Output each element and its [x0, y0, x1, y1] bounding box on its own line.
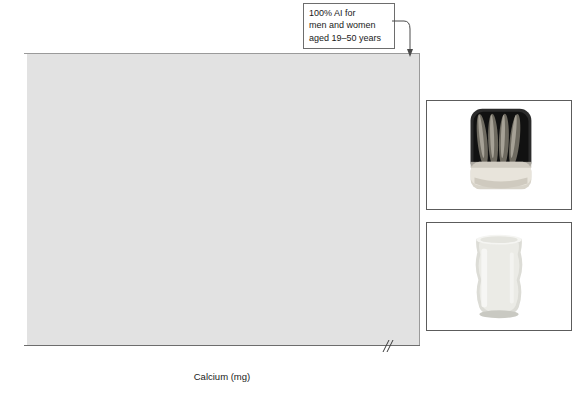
ai-callout-arrow-icon — [392, 16, 416, 60]
ai-reference-line — [24, 54, 27, 346]
x-axis-line — [24, 345, 420, 346]
milk-glass-illustration — [427, 223, 571, 330]
sardines-photo — [426, 100, 572, 210]
bars-container — [24, 54, 419, 345]
sardines-can-illustration — [427, 101, 571, 209]
ai-callout-line-1: 100% AI for — [309, 7, 389, 19]
axis-break-icon — [380, 338, 396, 354]
x-axis-title: Calcium (mg) — [24, 371, 420, 382]
ai-callout-box: 100% AI for men and women aged 19–50 yea… — [303, 3, 395, 49]
ai-callout-line-3: aged 19–50 years — [309, 32, 389, 44]
plot-area — [24, 53, 420, 345]
milk-photo — [426, 222, 572, 331]
ai-callout-line-2: men and women — [309, 19, 389, 31]
calcium-bar-chart: Food and serving size 100% AI for men an… — [0, 0, 582, 400]
